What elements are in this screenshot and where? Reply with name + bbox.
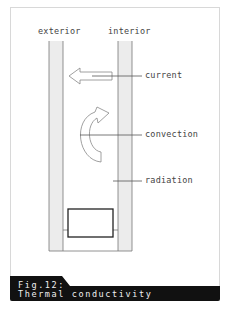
exterior-wall bbox=[49, 41, 63, 251]
window-frame bbox=[63, 209, 118, 237]
label-current: current bbox=[145, 70, 182, 80]
label-convection: convection bbox=[145, 129, 198, 139]
thermal-diagram bbox=[0, 0, 230, 310]
label-radiation: radiation bbox=[145, 175, 193, 185]
label-interior: interior bbox=[108, 26, 151, 36]
label-exterior: exterior bbox=[38, 26, 81, 36]
curved-arrow-icon bbox=[80, 107, 109, 162]
interior-wall bbox=[118, 41, 132, 251]
caption-title: Thermal conductivity bbox=[18, 289, 152, 299]
figure-caption: Fig.12: Thermal conductivity bbox=[10, 270, 220, 301]
